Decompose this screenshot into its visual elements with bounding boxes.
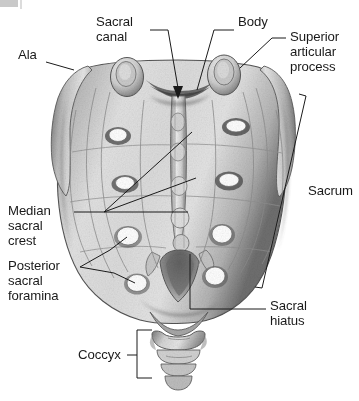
label-body: Body bbox=[238, 15, 268, 30]
label-median-sacral-crest-line2: sacral bbox=[8, 219, 43, 234]
label-sacral-hiatus-line1: Sacral bbox=[270, 299, 307, 314]
label-median-sacral-crest-line1: Median bbox=[8, 204, 51, 219]
label-coccyx: Coccyx bbox=[78, 348, 121, 363]
label-superior-articular-process-line1: Superior bbox=[290, 30, 339, 45]
superior-articular-process-right bbox=[208, 55, 241, 95]
label-median-sacral-crest-line3: crest bbox=[8, 234, 36, 249]
bracket-coccyx bbox=[137, 330, 152, 378]
label-ala: Ala bbox=[18, 48, 37, 63]
label-sacral-canal-line2: canal bbox=[96, 30, 127, 45]
label-sacral-hiatus-line2: hiatus bbox=[270, 314, 305, 329]
sacrum-bone bbox=[51, 55, 295, 336]
coccyx-segment-2 bbox=[157, 350, 200, 364]
label-superior-articular-process-line2: articular bbox=[290, 45, 336, 60]
label-sacral-canal-line1: Sacral bbox=[96, 15, 133, 30]
label-posterior-sacral-foramina-line3: foramina bbox=[8, 289, 59, 304]
label-posterior-sacral-foramina-line2: sacral bbox=[8, 274, 43, 289]
superior-articular-process-left bbox=[111, 58, 144, 97]
leader-superior-articular-process bbox=[240, 38, 286, 68]
label-superior-articular-process-line3: process bbox=[290, 60, 335, 75]
coccyx-segment-3 bbox=[161, 364, 196, 376]
label-sacrum: Sacrum bbox=[308, 184, 353, 199]
coccyx-bone bbox=[150, 331, 207, 390]
coccyx-segment-4 bbox=[165, 376, 192, 390]
leader-ala bbox=[46, 62, 74, 70]
label-posterior-sacral-foramina-line1: Posterior bbox=[8, 259, 60, 274]
anatomy-figure: Ala Sacral canal Body Superior articular… bbox=[0, 0, 359, 401]
